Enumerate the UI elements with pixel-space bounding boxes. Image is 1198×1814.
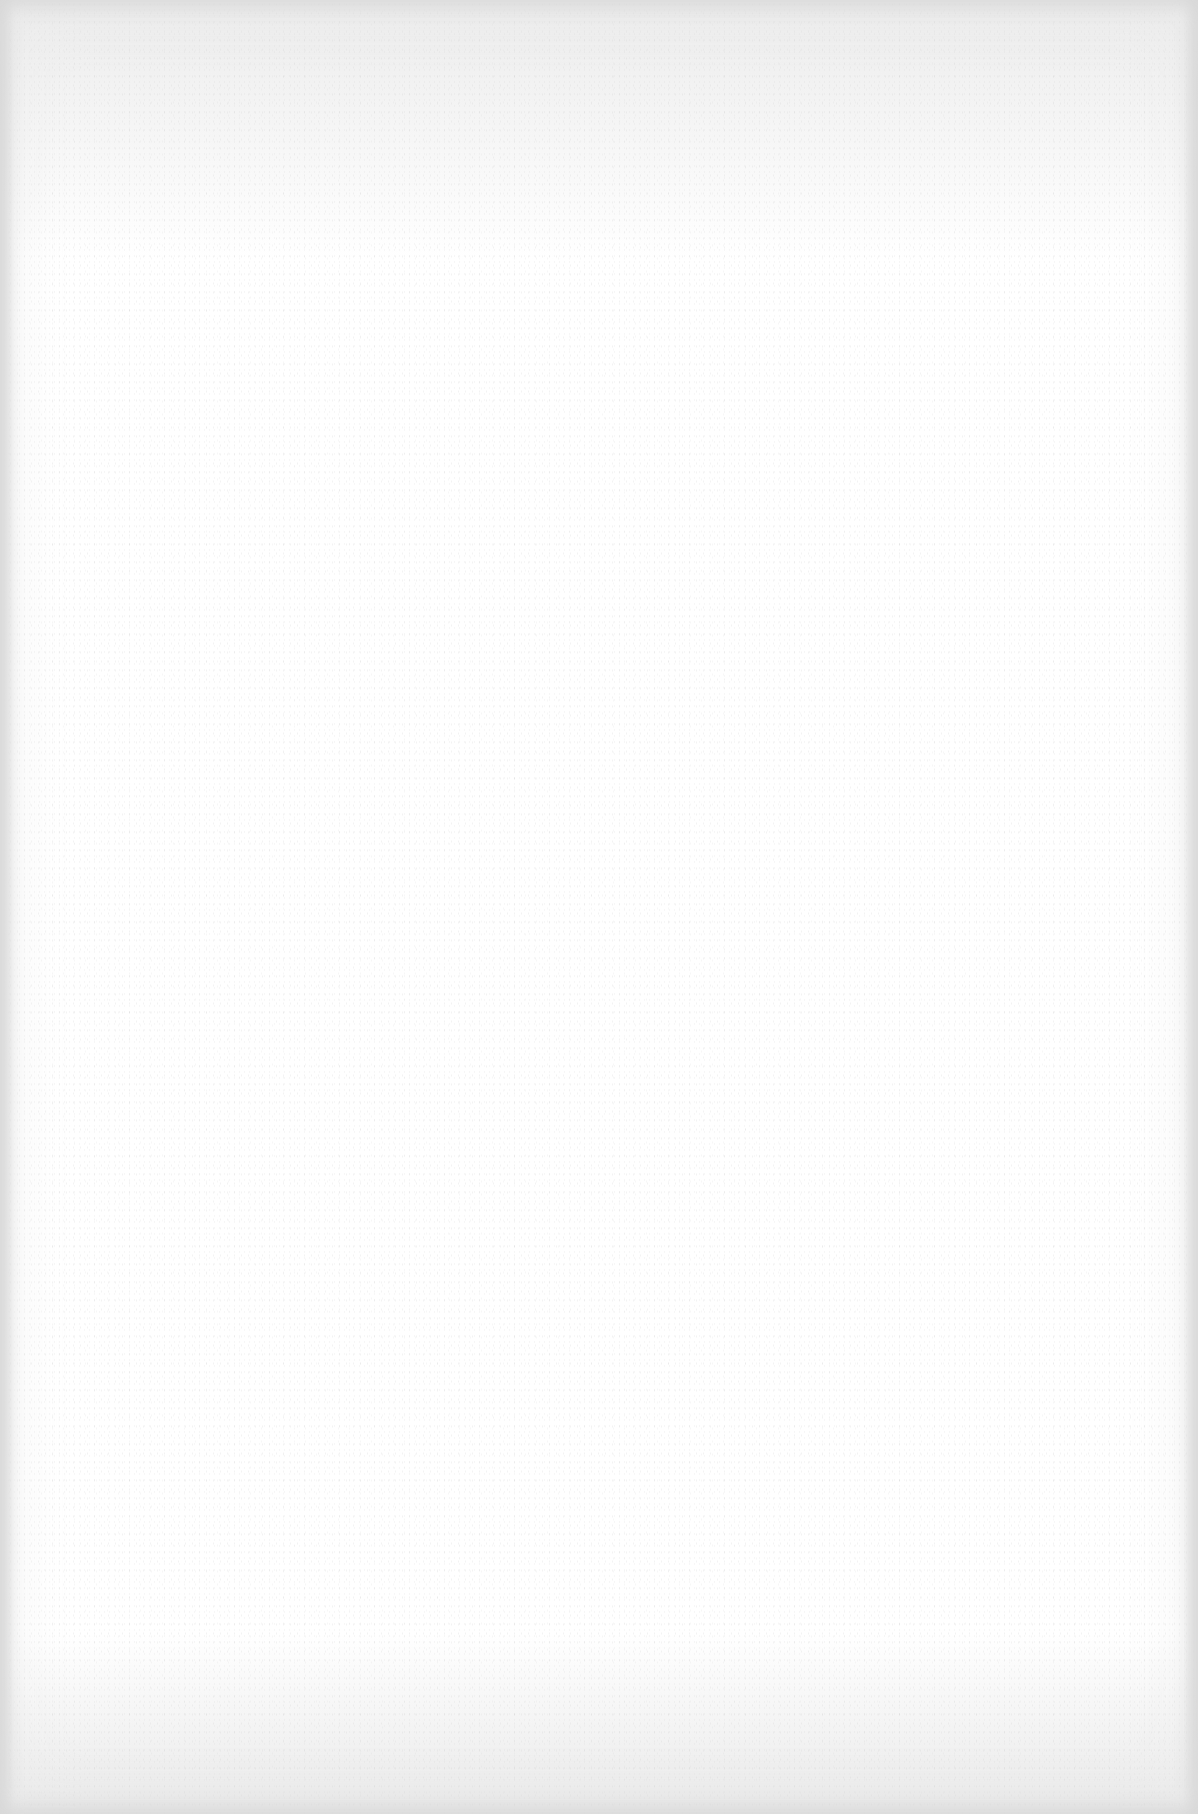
top-edge-shading [0, 0, 1198, 260]
blank-document-page [0, 0, 1198, 1814]
right-edge-shading [1184, 0, 1198, 1814]
paper-grain-texture [0, 0, 1198, 1814]
left-edge-shading [0, 0, 14, 1814]
bottom-edge-shading [0, 1634, 1198, 1814]
